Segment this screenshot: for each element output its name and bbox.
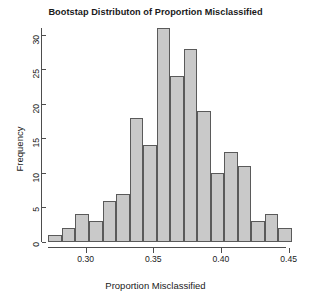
- histogram-bar: [278, 228, 292, 242]
- x-axis-tick: [153, 248, 154, 253]
- x-axis-tick-label: 0.45: [280, 254, 297, 264]
- histogram-bar: [130, 118, 144, 242]
- histogram-bar: [251, 221, 265, 242]
- histogram-bar: [224, 152, 238, 242]
- histogram-figure: Bootstap Distributon of Proportion Miscl…: [0, 0, 311, 298]
- y-axis-label: Frequency: [14, 99, 25, 199]
- histogram-bar: [143, 145, 157, 242]
- histogram-bar: [211, 173, 225, 242]
- y-axis-tick-label: 20: [31, 104, 41, 114]
- histogram-bar: [62, 228, 76, 242]
- y-axis-tick-label: 30: [31, 35, 41, 45]
- plot-area: [45, 28, 292, 242]
- x-axis-tick-label: 0.30: [77, 254, 94, 264]
- histogram-bar: [75, 214, 89, 242]
- histogram-bar: [89, 221, 103, 242]
- bars-container: [45, 28, 292, 242]
- x-axis-tick: [289, 248, 290, 253]
- y-axis-tick-label: 5: [31, 207, 41, 212]
- histogram-bar: [197, 111, 211, 242]
- y-axis-tick-label: 0: [31, 242, 41, 247]
- y-axis-tick-label: 15: [31, 138, 41, 148]
- histogram-bar: [170, 76, 184, 242]
- y-axis-tick-label: 25: [31, 69, 41, 79]
- x-axis-tick: [86, 248, 87, 253]
- histogram-bar: [265, 214, 279, 242]
- x-axis-tick: [221, 248, 222, 253]
- histogram-bar: [116, 194, 130, 242]
- histogram-bar: [48, 235, 62, 242]
- chart-title: Bootstap Distributon of Proportion Miscl…: [0, 7, 311, 17]
- y-axis-tick-label: 10: [31, 173, 41, 183]
- histogram-bar: [184, 49, 198, 242]
- histogram-bar: [103, 201, 117, 242]
- y-axis-tick: [42, 242, 46, 243]
- x-axis-label: Proportion Misclassified: [0, 280, 311, 291]
- x-axis-tick-label: 0.40: [213, 254, 230, 264]
- histogram-bar: [157, 28, 171, 242]
- x-axis-tick-label: 0.35: [145, 254, 162, 264]
- histogram-bar: [238, 166, 252, 242]
- x-axis: 0.300.350.400.45: [48, 247, 286, 252]
